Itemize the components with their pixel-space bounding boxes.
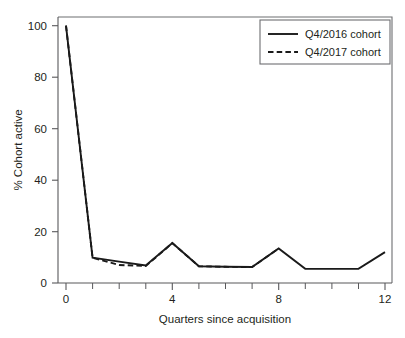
y-tick-label-0: 0 xyxy=(41,277,47,289)
x-axis-tick-labels: 0 4 8 12 xyxy=(63,293,392,305)
x-axis-title: Quarters since acquisition xyxy=(159,313,291,325)
x-tick-label-0: 0 xyxy=(63,293,69,305)
y-tick-label-80: 80 xyxy=(34,71,47,83)
chart-legend: Q4/2016 cohort Q4/2017 cohort xyxy=(260,20,390,64)
legend-label-q4-2017: Q4/2017 cohort xyxy=(305,46,381,58)
x-tick-label-4: 4 xyxy=(169,293,176,305)
cohort-retention-line-chart: 100 80 60 40 20 0 % Cohort active xyxy=(0,0,405,338)
y-axis-title: % Cohort active xyxy=(12,109,24,190)
chart-figure: 100 80 60 40 20 0 % Cohort active xyxy=(0,0,405,338)
legend-label-q4-2016: Q4/2016 cohort xyxy=(305,28,381,40)
y-axis-tick-labels: 100 80 60 40 20 0 xyxy=(28,20,47,289)
x-axis-minor-ticks xyxy=(93,283,359,289)
y-tick-label-40: 40 xyxy=(34,174,47,186)
x-tick-label-8: 8 xyxy=(275,293,281,305)
y-axis-ticks xyxy=(52,26,58,283)
y-tick-label-60: 60 xyxy=(34,123,47,135)
x-tick-label-12: 12 xyxy=(379,293,392,305)
y-tick-label-100: 100 xyxy=(28,20,47,32)
y-tick-label-20: 20 xyxy=(34,226,47,238)
